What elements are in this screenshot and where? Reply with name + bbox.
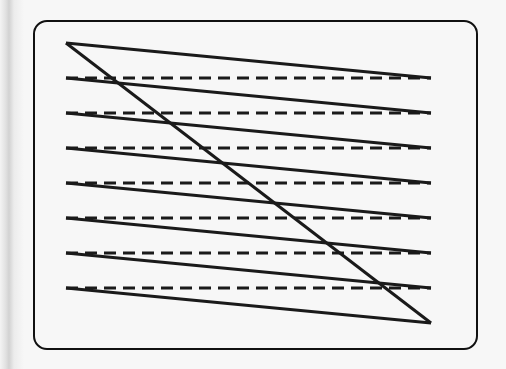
- raster-scan-diagram: [0, 0, 506, 369]
